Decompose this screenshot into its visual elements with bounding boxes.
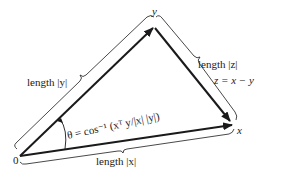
length-z-label: length |z| <box>198 58 238 70</box>
angle-arc <box>60 119 66 149</box>
vertex-x-label: x <box>236 124 242 136</box>
length-y-label: length |y| <box>27 76 67 88</box>
origin-label: 0 <box>13 154 19 166</box>
vector-x-arrow <box>20 125 232 156</box>
vertex-y-label: y <box>151 5 157 17</box>
z-definition-label: z = x − y <box>213 74 254 86</box>
length-x-label: length |x| <box>96 155 136 167</box>
vector-angle-diagram: 0 y x length |y| length |z| z = x − y le… <box>0 0 283 169</box>
